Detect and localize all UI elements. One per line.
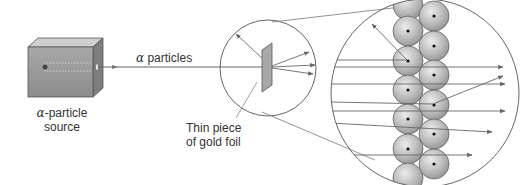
gold-foil [262,43,272,92]
zoom-line-bottom [262,112,375,160]
alpha-source-box [28,38,103,97]
foil-label: Thin piece of gold foil [186,121,241,149]
atomic-view-circle [330,0,519,185]
beam-label-text: particles [144,51,192,65]
source-label-line2: source [44,120,80,134]
foil-leader-line [236,82,257,118]
source-label: α-particle source [32,106,92,134]
atom-column-right [419,1,449,179]
beam-arrow-icon [112,65,118,69]
source-label-line1: -particle [45,106,88,120]
foil-label-line2: of gold foil [186,135,241,149]
foil-label-line1: Thin piece [186,121,241,135]
beam-label: α particles [136,51,192,65]
alpha-symbol: α [136,51,144,65]
atom-column-left [393,0,423,185]
radioactive-source-dot [43,65,48,70]
alpha-symbol: α [37,106,45,120]
foil-circle [220,20,316,118]
zoom-line-top [272,6,410,22]
rutherford-diagram [0,0,524,185]
